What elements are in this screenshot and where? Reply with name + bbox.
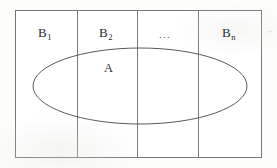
- cell-label-bn: Bn: [222, 26, 235, 39]
- cell-label-b1-subscript: 1: [47, 32, 51, 42]
- cell-label-b1: B1: [38, 26, 51, 39]
- cell-label-b1-base: B: [38, 25, 47, 40]
- cell-label-b2-base: B: [99, 25, 108, 40]
- event-a-label: A: [104, 62, 113, 75]
- cell-label-bn-subscript: n: [231, 32, 235, 42]
- cell-label-b2: B2: [99, 26, 112, 39]
- cell-label-ellipsis: ...: [159, 29, 171, 40]
- partition-diagram-figure: B1 B2 ... Bn A +: [0, 0, 277, 168]
- cell-label-bn-base: B: [222, 25, 231, 40]
- scan-artifact-speck: +: [268, 28, 272, 36]
- cell-label-b2-subscript: 2: [108, 32, 112, 42]
